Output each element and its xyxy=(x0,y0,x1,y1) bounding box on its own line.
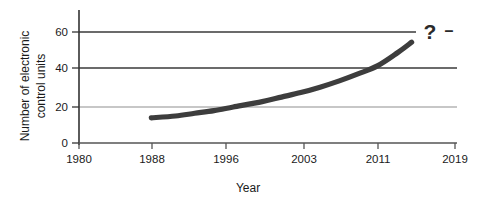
chart-canvas: 60 40 20 0 1980 1988 1996 2003 2011 2019 xyxy=(0,0,486,208)
x-axis-title: Year xyxy=(236,181,260,195)
y-axis-title: Number of electronic control units xyxy=(18,31,48,142)
x-tick-label-2011: 2011 xyxy=(366,153,391,165)
x-tick-label-2019: 2019 xyxy=(442,153,468,165)
x-tick-label-1996: 1996 xyxy=(213,153,239,165)
data-series-group xyxy=(151,42,411,118)
chart-screenshot: 60 40 20 0 1980 1988 1996 2003 2011 2019 xyxy=(0,0,486,208)
y-axis-title-line-2: control units xyxy=(34,54,48,119)
x-tick-label-1980: 1980 xyxy=(66,153,92,165)
x-axis: 1980 1988 1996 2003 2011 2019 xyxy=(66,143,468,165)
data-line-electronic-control-units xyxy=(151,42,411,118)
y-tick-label-60: 60 xyxy=(55,26,68,38)
line-chart-figure: 60 40 20 0 1980 1988 1996 2003 2011 2019 xyxy=(0,0,486,208)
future-unknown-annotation: ? – xyxy=(424,20,454,43)
y-axis-title-line-1: Number of electronic xyxy=(18,31,32,142)
dash-annotation: – xyxy=(445,22,454,39)
gridlines xyxy=(79,32,457,107)
y-axis: 60 40 20 0 xyxy=(55,10,79,149)
y-tick-label-40: 40 xyxy=(55,62,68,74)
question-mark-annotation: ? xyxy=(424,20,437,43)
y-tick-label-0: 0 xyxy=(62,137,68,149)
x-tick-label-2003: 2003 xyxy=(291,153,317,165)
y-tick-label-20: 20 xyxy=(55,101,68,113)
x-tick-label-1988: 1988 xyxy=(139,153,165,165)
